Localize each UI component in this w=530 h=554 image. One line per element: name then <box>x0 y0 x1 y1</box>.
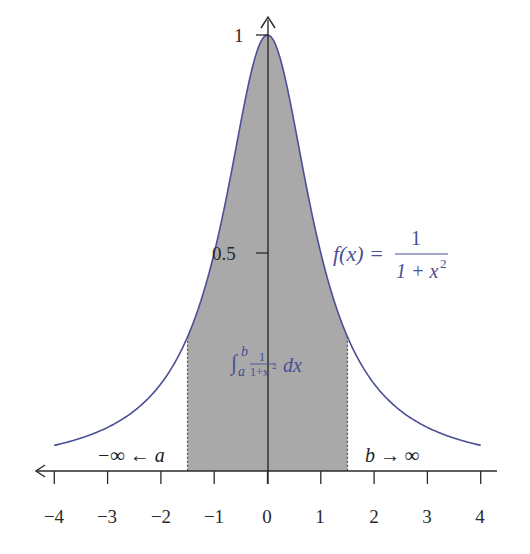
y-tick-label-0.5: 0.5 <box>212 243 236 264</box>
integrand-numerator: 1 <box>259 349 266 364</box>
function-numerator: 1 <box>411 227 421 249</box>
x-tick-label: 3 <box>422 506 432 527</box>
x-tick-label: 2 <box>369 506 379 527</box>
integral-upper-limit: b <box>241 344 248 359</box>
right-limit-label: b → ∞ <box>365 444 419 466</box>
integrand-exponent: 2 <box>272 361 277 371</box>
cauchy-plot: 1 0.5 −4 −3 −2 −1 0 1 2 3 4 f(x) = 1 1 +… <box>0 0 530 554</box>
integrand-denominator: 1+x <box>250 365 269 379</box>
function-denominator-exponent: 2 <box>440 256 447 271</box>
integral-lower-limit: a <box>238 364 245 379</box>
left-limit-label: −∞ ← a <box>97 444 165 466</box>
function-denominator: 1 + x <box>396 260 438 282</box>
x-tick-label: 1 <box>315 506 325 527</box>
diagram-canvas: 1 0.5 −4 −3 −2 −1 0 1 2 3 4 f(x) = 1 1 +… <box>0 0 530 554</box>
x-tick-label: −3 <box>97 506 117 527</box>
function-lhs: f(x) = <box>333 241 384 266</box>
x-ticks <box>54 471 480 484</box>
integral-dx: dx <box>283 354 302 376</box>
x-tick-label: −1 <box>204 506 224 527</box>
function-label: f(x) = 1 1 + x 2 <box>333 227 448 282</box>
x-tick-label: 0 <box>262 506 272 527</box>
x-tick-label: −4 <box>44 506 65 527</box>
x-tick-labels: −4 −3 −2 −1 0 1 2 3 4 <box>44 506 485 527</box>
x-tick-label: −2 <box>151 506 171 527</box>
x-tick-label: 4 <box>475 506 485 527</box>
y-tick-label-1: 1 <box>234 25 244 46</box>
